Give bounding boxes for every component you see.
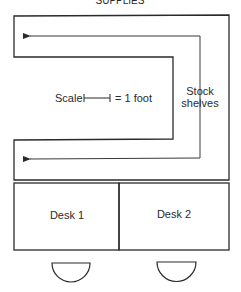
scale-bar xyxy=(84,94,110,102)
chair-1 xyxy=(52,263,90,282)
supplies-title: SUPPLIES xyxy=(96,0,145,6)
desk-2-label: Desk 2 xyxy=(157,208,191,220)
scale-value: = 1 foot xyxy=(115,92,152,104)
chair-2 xyxy=(157,262,196,282)
floor-plan-diagram: SUPPLIES Scale = 1 foot Stock shelves De… xyxy=(0,0,241,292)
shelves-label-line2: shelves xyxy=(181,97,219,109)
shelves-label-line1: Stock xyxy=(186,85,214,97)
desk-1-label: Desk 1 xyxy=(50,209,84,221)
scale-label: Scale xyxy=(55,92,83,104)
walking-path-bottom-arrow xyxy=(30,158,200,159)
